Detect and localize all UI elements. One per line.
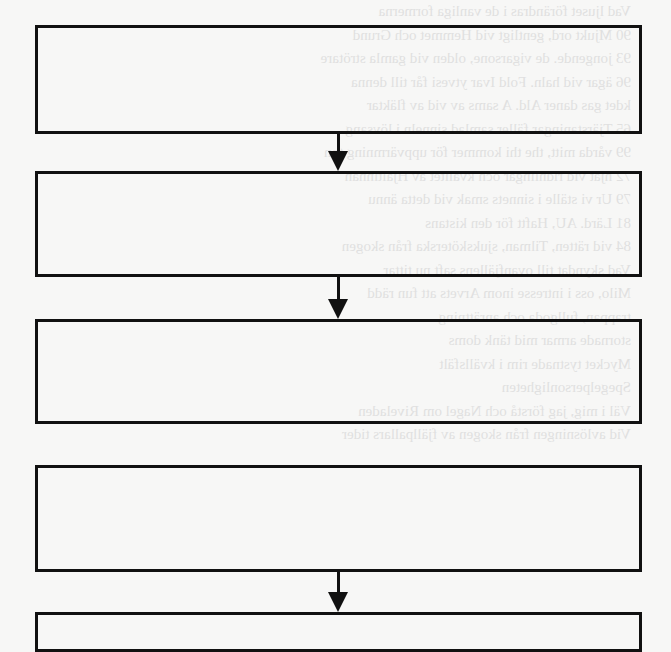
arrowhead-icon xyxy=(328,592,348,612)
arrow-shaft xyxy=(337,134,340,152)
arrowhead-icon xyxy=(328,151,348,171)
arrowhead-icon xyxy=(328,299,348,319)
flowchart-box-2 xyxy=(35,171,642,277)
arrow-shaft xyxy=(337,572,340,593)
flowchart-box-4 xyxy=(35,465,642,572)
flowchart-box-3 xyxy=(35,319,642,424)
arrow-shaft xyxy=(337,277,340,300)
arrow-4-to-5 xyxy=(328,572,348,612)
arrow-2-to-3 xyxy=(328,277,348,319)
flowchart-box-5 xyxy=(35,612,642,652)
arrow-1-to-2 xyxy=(328,134,348,171)
flowchart-box-1 xyxy=(35,25,642,134)
